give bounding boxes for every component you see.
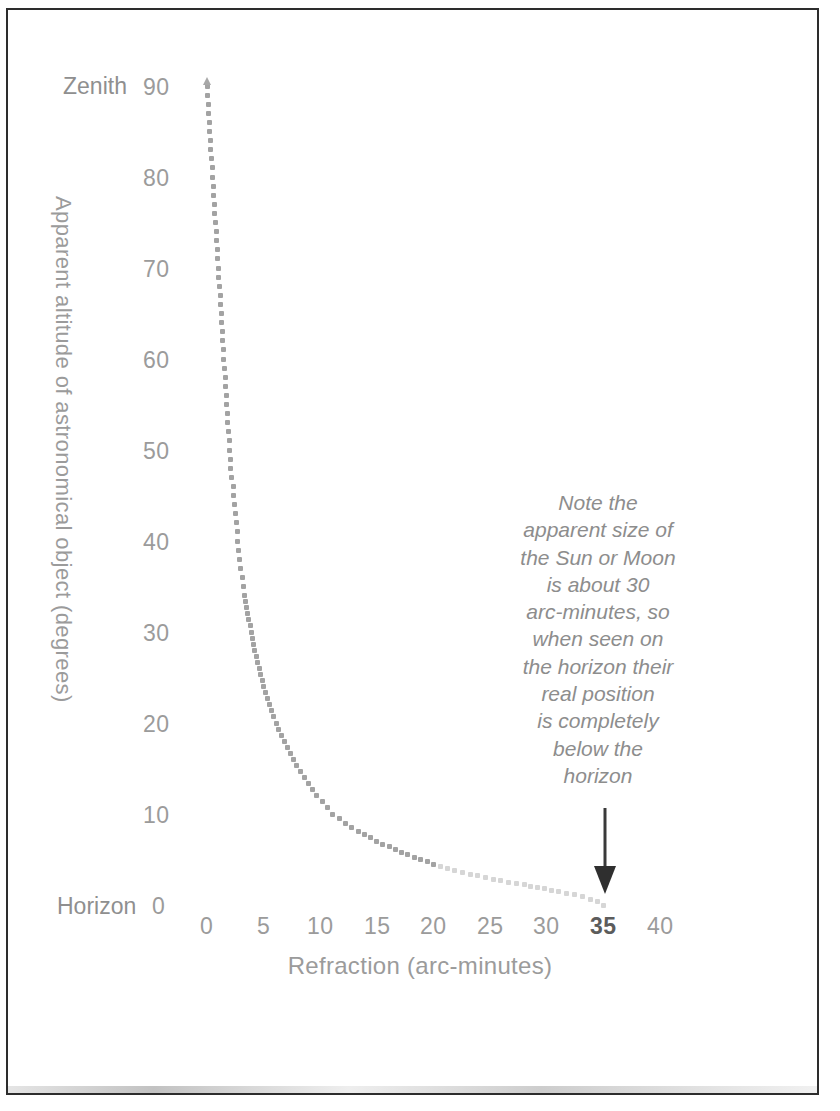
curve-dot <box>250 636 255 641</box>
y-tick-90: 90 <box>143 76 170 99</box>
curve-dot <box>267 702 272 707</box>
curve-dot <box>209 156 214 161</box>
annotation-line: is completely <box>487 707 709 734</box>
curve-dot <box>207 129 212 134</box>
curve-dot <box>221 347 226 352</box>
curve-dot <box>302 775 307 780</box>
curve-dot <box>244 605 249 610</box>
curve-dot <box>255 660 260 665</box>
curve-dot <box>314 793 319 798</box>
curve-dot <box>236 548 241 553</box>
curve-dot <box>595 899 600 904</box>
curve-dot <box>269 708 274 713</box>
curve-dot <box>258 672 263 677</box>
curve-dot <box>229 475 234 480</box>
curve-dot <box>215 247 220 252</box>
curve-dot <box>514 881 519 886</box>
y-tick-70: 70 <box>143 258 170 281</box>
curve-dot <box>460 870 465 875</box>
curve-dot <box>498 878 503 883</box>
curve-dot <box>238 566 243 571</box>
y-tick-50: 50 <box>143 440 170 463</box>
curve-dot <box>227 438 232 443</box>
curve-dot <box>214 238 219 243</box>
x-tick-35: 35 <box>590 915 617 938</box>
curve-dot <box>564 891 569 896</box>
curve-dot <box>232 502 237 507</box>
curve-dot <box>216 266 221 271</box>
curve-dot <box>254 654 259 659</box>
curve-dot <box>282 739 287 744</box>
curve-dot <box>217 284 222 289</box>
x-tick-20: 20 <box>420 915 447 938</box>
annotation-line: arc-minutes, so <box>487 598 709 625</box>
curve-top-arrow-icon <box>203 77 211 85</box>
curve-dot <box>274 721 279 726</box>
y-axis-bottom-label: Horizon <box>57 895 136 918</box>
annotation-line: Note the <box>487 489 709 516</box>
curve-dot <box>276 727 281 732</box>
x-tick-10: 10 <box>307 915 334 938</box>
curve-dot <box>249 630 254 635</box>
curve-dot <box>234 520 239 525</box>
curve-dot <box>310 787 315 792</box>
refraction-chart: Zenith Horizon 0 10 20 30 40 50 60 70 80… <box>0 0 840 1111</box>
curve-dot <box>535 885 540 890</box>
curve-dot <box>425 859 430 864</box>
x-tick-5: 5 <box>257 915 270 938</box>
curve-dot <box>522 882 527 887</box>
curve-dot <box>325 805 330 810</box>
y-axis-top-label: Zenith <box>63 75 127 98</box>
curve-dot <box>399 850 404 855</box>
curve-dot <box>263 690 268 695</box>
curve-dot <box>491 877 496 882</box>
curve-dot <box>206 102 211 107</box>
x-tick-15: 15 <box>364 915 391 938</box>
curve-dot <box>251 642 256 647</box>
x-tick-40: 40 <box>647 915 674 938</box>
curve-dot <box>506 880 511 885</box>
annotation-line: below the <box>487 735 709 762</box>
curve-dot <box>216 275 221 280</box>
curve-dot <box>368 835 373 840</box>
curve-dot <box>243 599 248 604</box>
curve-dot <box>343 821 348 826</box>
curve-dot <box>225 420 230 425</box>
y-tick-60: 60 <box>143 349 170 372</box>
curve-dot <box>265 696 270 701</box>
x-tick-25: 25 <box>477 915 504 938</box>
curve-dot <box>212 211 217 216</box>
annotation-line: the Sun or Moon <box>487 544 709 571</box>
curve-dot <box>601 903 606 908</box>
curve-dot <box>279 733 284 738</box>
curve-dot <box>306 781 311 786</box>
curve-dot <box>337 816 342 821</box>
curve-dot <box>418 857 423 862</box>
curve-dot <box>233 511 238 516</box>
curve-dot <box>231 484 236 489</box>
curve-dot <box>211 193 216 198</box>
curve-dot <box>235 539 240 544</box>
curve-dot <box>261 684 266 689</box>
curve-dot <box>220 329 225 334</box>
curve-dot <box>405 852 410 857</box>
curve-dot <box>330 812 335 817</box>
curve-dot <box>288 751 293 756</box>
curve-dot <box>271 714 276 719</box>
curve-dot <box>213 220 218 225</box>
curve-dot <box>298 769 303 774</box>
y-tick-20: 20 <box>143 713 170 736</box>
curve-dot <box>483 875 488 880</box>
curve-dot <box>240 575 245 580</box>
curve-dot <box>218 302 223 307</box>
curve-dot <box>228 457 233 462</box>
annotation-line: when seen on <box>487 625 709 652</box>
curve-dot <box>393 847 398 852</box>
curve-dot <box>349 825 354 830</box>
curve-dot <box>387 844 392 849</box>
curve-dot <box>542 886 547 891</box>
curve-dot <box>412 855 417 860</box>
curve-dot <box>222 366 227 371</box>
curve-dot <box>431 862 436 867</box>
curve-dot <box>208 138 213 143</box>
